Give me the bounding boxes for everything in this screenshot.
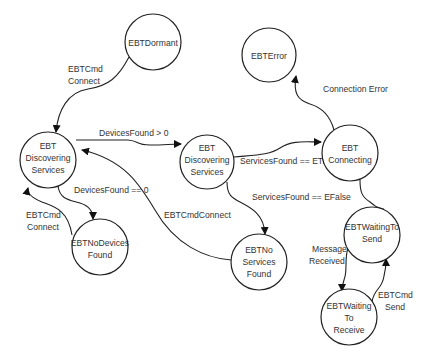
label-cmd-connect: EBTCmdConnect bbox=[164, 210, 231, 220]
svg-text:EBTDormant: EBTDormant bbox=[128, 38, 178, 48]
svg-text:Services: Services bbox=[32, 165, 65, 175]
svg-text:Send: Send bbox=[362, 234, 382, 244]
svg-text:Services: Services bbox=[243, 257, 276, 267]
edge-message-received bbox=[342, 248, 348, 291]
svg-text:EBT: EBT bbox=[199, 143, 216, 153]
svg-text:Connecting: Connecting bbox=[328, 155, 372, 165]
state-ebt-connecting: EBT Connecting bbox=[322, 125, 378, 181]
label-services-true: ServicesFound == ETrue bbox=[240, 156, 335, 166]
svg-text:EBT: EBT bbox=[342, 143, 359, 153]
state-ebt-no-services-found: EBTNo Services Found bbox=[231, 234, 287, 290]
state-ebt-no-devices-found: EBTNoDevices Found bbox=[71, 219, 129, 275]
label-msg-received-1: Message bbox=[312, 244, 347, 254]
label-devices-eq0: DevicesFound == 0 bbox=[74, 185, 149, 195]
edge-services-false bbox=[227, 182, 265, 234]
state-ebt-waiting-to-send: EBTWaitingTo Send bbox=[344, 207, 400, 263]
edge-devices-found-gt0 bbox=[76, 140, 181, 145]
svg-text:EBTNoDevices: EBTNoDevices bbox=[71, 238, 129, 248]
state-ebt-error: EBTError bbox=[242, 28, 296, 82]
label-nodev-connect-1: EBTCmd bbox=[26, 210, 61, 220]
svg-text:Receive: Receive bbox=[333, 325, 364, 335]
edge-connecting-to-waitsend bbox=[360, 180, 377, 207]
state-ebt-discovering-services-left: EBT Discovering Services bbox=[20, 132, 76, 188]
label-dormant-connect-2: Connect bbox=[68, 76, 101, 86]
svg-text:Discovering: Discovering bbox=[185, 155, 230, 165]
svg-text:Services: Services bbox=[191, 167, 224, 177]
label-dormant-connect-1: EBTCmd bbox=[68, 64, 103, 74]
label-services-false: ServicesFound == EFalse bbox=[252, 192, 351, 202]
svg-text:EBTWaitingTo: EBTWaitingTo bbox=[345, 222, 399, 232]
svg-text:EBTNo: EBTNo bbox=[245, 245, 273, 255]
svg-text:Found: Found bbox=[88, 250, 113, 260]
state-ebt-discovering-services-mid: EBT Discovering Services bbox=[180, 135, 234, 189]
svg-text:Found: Found bbox=[247, 269, 272, 279]
svg-text:EBT: EBT bbox=[40, 141, 57, 151]
label-connection-error: Connection Error bbox=[323, 84, 388, 94]
svg-text:EBTError: EBTError bbox=[251, 51, 287, 61]
edge-services-true bbox=[234, 142, 321, 157]
label-msg-received-2: Received bbox=[309, 256, 345, 266]
svg-text:Discovering: Discovering bbox=[26, 153, 71, 163]
label-cmd-send-2: Send bbox=[385, 302, 405, 312]
transition-labels: EBTCmd Connect DevicesFound > 0 DevicesF… bbox=[26, 64, 413, 312]
label-devices-gt0: DevicesFound > 0 bbox=[99, 128, 169, 138]
svg-text:EBTWaiting: EBTWaiting bbox=[326, 301, 371, 311]
state-ebt-waiting-to-receive: EBTWaiting To Receive bbox=[321, 289, 377, 345]
state-ebt-dormant: EBTDormant bbox=[125, 14, 181, 70]
svg-text:To: To bbox=[344, 313, 353, 323]
label-nodev-connect-2: Connect bbox=[27, 222, 60, 232]
state-diagram: EBTCmd Connect DevicesFound > 0 DevicesF… bbox=[0, 0, 424, 360]
label-cmd-send-1: EBTCmd bbox=[378, 290, 413, 300]
